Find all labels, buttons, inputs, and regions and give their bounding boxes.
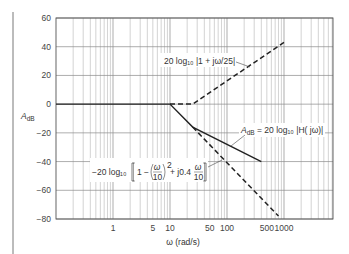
x-tick-label: 1000	[275, 223, 294, 233]
svg-text:10: 10	[194, 172, 204, 182]
svg-text:10: 10	[153, 172, 163, 182]
annotation-upper-leader	[236, 62, 250, 67]
x-tick-label: 50	[205, 223, 215, 233]
y-tick-label: 40	[42, 42, 52, 52]
svg-text:1 −: 1 −	[137, 167, 149, 177]
y-tick-label: 20	[42, 70, 52, 80]
svg-text:ω: ω	[195, 162, 202, 172]
y-axis-ticks: 6040200−20−40−60−80	[37, 13, 52, 224]
y-tick-label: 0	[46, 99, 51, 109]
svg-text:ω: ω	[154, 162, 161, 172]
x-tick-label: 500	[260, 223, 274, 233]
x-tick-label: 10	[165, 223, 175, 233]
y-tick-label: 60	[42, 13, 52, 23]
annotation-upper: 20 log₁₀ |1 + jω/25|	[164, 56, 235, 66]
x-axis-label: ω (rad/s)	[166, 237, 200, 247]
bode-magnitude-chart: 6040200−20−40−60−80 1510501005001000 AdB…	[0, 0, 349, 254]
y-tick-label: −60	[37, 185, 52, 195]
y-tick-label: −80	[37, 214, 52, 224]
y-axis-label: AdB	[20, 111, 35, 122]
annotation-mid-leader	[231, 135, 245, 146]
x-tick-label: 5	[150, 223, 155, 233]
svg-text:+ j0.4: + j0.4	[170, 167, 191, 177]
grid	[56, 18, 333, 219]
x-axis-ticks: 1510501005001000	[111, 223, 294, 233]
plot-frame	[56, 18, 333, 219]
x-tick-label: 1	[111, 223, 116, 233]
x-tick-label: 100	[220, 223, 234, 233]
y-tick-label: −20	[37, 128, 52, 138]
y-tick-label: −40	[37, 157, 52, 167]
svg-text:−20 log₁₀: −20 log₁₀	[92, 167, 127, 177]
